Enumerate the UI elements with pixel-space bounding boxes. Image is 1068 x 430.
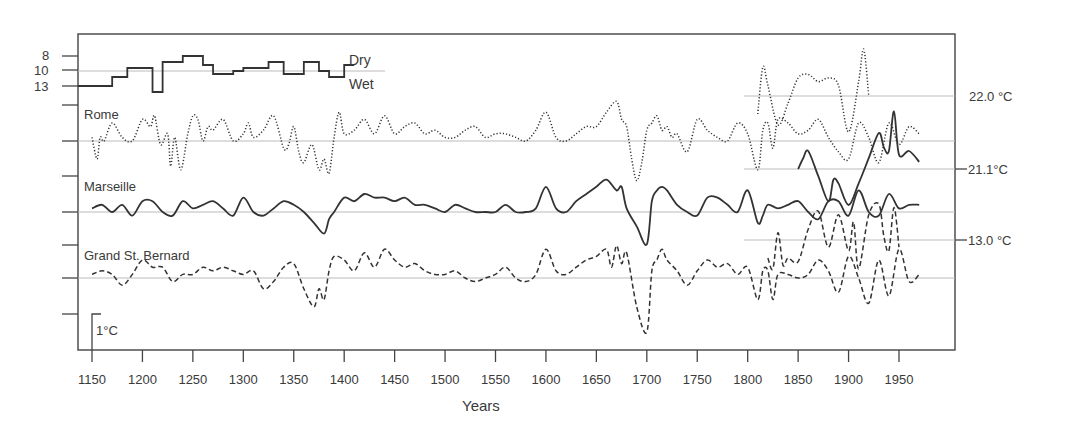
x-tick-label: 1750 [683,372,712,387]
x-tick-label: 1900 [834,372,863,387]
rainfall-step-series [78,56,354,92]
scale-bar-label: 1°C [96,323,118,338]
series-label-marseille: Marseille [84,179,136,194]
dry-label: Dry [349,52,371,68]
rain-tick-13: 13 [34,79,48,94]
x-tick-label: 1650 [582,372,611,387]
x-tick-label: 1450 [380,372,409,387]
baselines [78,71,955,278]
baseline-label-marseille: 21.1°C [968,162,1008,177]
x-tick-label: 1800 [733,372,762,387]
series-line-grand-st-bernard-instrumental [768,203,899,270]
x-tick-label: 1300 [229,372,258,387]
x-tick-label: 1400 [330,372,359,387]
series-line-rome-instrumental [758,49,869,132]
rain-tick-10: 10 [34,63,48,78]
baseline-label-rome: 22.0 °C [969,89,1013,104]
y-axis-ticks [62,56,967,350]
x-tick-label: 1350 [279,372,308,387]
series-line-grand-st-bernard [92,246,919,334]
x-tick-label: 1500 [431,372,460,387]
baseline-label-grand-st-bernard: 13.0 °C [968,233,1012,248]
series-label-rome: Rome [84,107,119,122]
temperature-series [92,49,919,333]
x-axis-title: Years [462,397,500,414]
chart-canvas: 1150120012501300135014001450150015501600… [0,0,1068,430]
x-tick-label: 1550 [481,372,510,387]
rain-tick-8: 8 [42,48,49,63]
rainfall-line [78,56,354,92]
x-tick-label: 1150 [78,372,106,387]
x-axis: 1150120012501300135014001450150015501600… [78,350,913,387]
series-label-grand-st-bernard: Grand St. Bernard [84,248,190,263]
x-tick-label: 1600 [531,372,560,387]
climate-chart: 1150120012501300135014001450150015501600… [0,0,1068,430]
wet-label: Wet [349,76,374,92]
x-tick-label: 1950 [885,372,914,387]
x-tick-label: 1250 [178,372,207,387]
x-tick-label: 1850 [784,372,813,387]
x-tick-label: 1200 [128,372,157,387]
x-tick-label: 1700 [632,372,661,387]
